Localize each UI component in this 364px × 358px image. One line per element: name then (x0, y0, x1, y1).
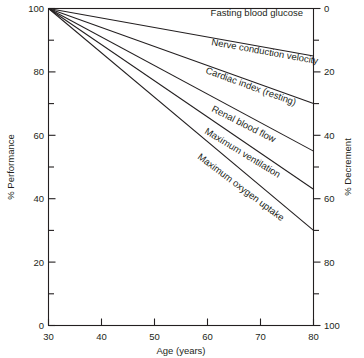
series-label-fasting-blood-glucose: Fasting blood glucose (211, 7, 303, 18)
series-label-cardiac-index-resting: Cardiac index (resting) (204, 65, 298, 108)
x-axis-ticks (49, 319, 314, 326)
y2-axis-title: % Decrement (342, 138, 353, 196)
performance-decrement-line-chart: 0 20 40 60 80 100 0 20 40 60 80 100 30 4… (0, 0, 364, 358)
x-tick-label-60: 60 (202, 331, 213, 342)
y2-tick-label-40: 40 (324, 130, 335, 141)
x-tick-label-50: 50 (149, 331, 160, 342)
right-axis-minor-ticks (314, 40, 320, 294)
left-axis-minor-ticks (49, 40, 55, 294)
line-maximum-oxygen-uptake (49, 9, 314, 231)
y-tick-label-80: 80 (33, 66, 44, 77)
y2-tick-label-60: 60 (324, 193, 335, 204)
chart-figure: 0 20 40 60 80 100 0 20 40 60 80 100 30 4… (0, 0, 364, 358)
x-tick-label-80: 80 (308, 331, 319, 342)
left-axis-tick-labels: 0 20 40 60 80 100 (28, 3, 44, 331)
x-axis-tick-labels: 30 40 50 60 70 80 (43, 331, 319, 342)
series-inline-labels: Fasting blood glucose Nerve conduction v… (196, 7, 320, 223)
y-tick-label-40: 40 (33, 193, 44, 204)
y-tick-label-100: 100 (28, 3, 44, 14)
y2-tick-label-0: 0 (324, 3, 329, 14)
y2-tick-label-20: 20 (324, 66, 335, 77)
y-tick-label-60: 60 (33, 130, 44, 141)
y2-tick-label-80: 80 (324, 257, 335, 268)
right-axis-tick-labels: 0 20 40 60 80 100 (324, 3, 340, 331)
y-tick-label-20: 20 (33, 257, 44, 268)
data-series-lines (49, 9, 314, 231)
x-tick-label-40: 40 (96, 331, 107, 342)
y2-tick-label-100: 100 (324, 320, 340, 331)
line-renal-blood-flow (49, 9, 314, 152)
x-axis-title: Age (years) (156, 345, 205, 356)
series-label-nerve-conduction-velocity: Nerve conduction velocity (211, 36, 320, 66)
x-tick-label-70: 70 (255, 331, 266, 342)
y-axis-title: % Performance (5, 134, 16, 199)
x-tick-label-30: 30 (43, 331, 54, 342)
y-tick-label-0: 0 (39, 320, 44, 331)
